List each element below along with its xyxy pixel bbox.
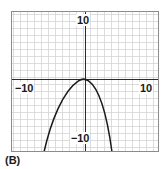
figure-panel: 10 −10 10 −10 (B) [0, 0, 166, 169]
x-axis-tick-label-positive: 10 [139, 82, 153, 94]
y-axis-tick-label-negative: −10 [70, 132, 90, 144]
panel-label-b: (B) [5, 154, 20, 167]
y-axis-tick-label-positive: 10 [76, 14, 90, 26]
x-axis-tick-label-negative: −10 [14, 82, 34, 94]
